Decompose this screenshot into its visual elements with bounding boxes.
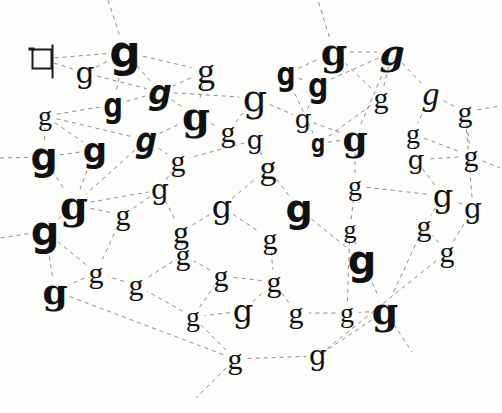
glyph-node: g (406, 120, 420, 148)
graph-edge (90, 208, 110, 212)
glyph-node: g (276, 58, 295, 90)
glyph-node: g (464, 195, 482, 223)
glyph-node: g (417, 211, 432, 241)
glyph-node: g (348, 240, 377, 280)
graph-edge-open (0, 234, 28, 238)
graph-edge (133, 197, 150, 208)
figure-canvas: gggggggggggggggggggggggggggggggggggggggg… (0, 0, 502, 413)
glyph-node: g (182, 96, 210, 136)
glyph-node: g (186, 303, 200, 331)
glyph-node: g (243, 79, 267, 117)
glyph-node: g (260, 151, 277, 185)
glyph-node: g (176, 240, 191, 270)
glyph-node: g (247, 127, 264, 153)
graph-edge (69, 278, 85, 285)
graph-edge (147, 291, 183, 311)
glyph-node: g (342, 120, 367, 156)
graph-edge (172, 100, 182, 107)
glyph-node: g (38, 102, 52, 130)
graph-edge (69, 296, 223, 354)
glyph-node: g (433, 180, 453, 212)
glyph-node: g (129, 270, 144, 300)
graph-edge (60, 152, 81, 155)
graph-edge-open (477, 106, 500, 110)
graph-edge-open (196, 368, 226, 398)
glyph-node: g (109, 30, 141, 74)
glyph-node: g (344, 217, 357, 243)
glyph-node: g (372, 292, 399, 330)
graph-edge (444, 101, 454, 106)
glyph-node: g (458, 97, 473, 127)
glyph-node: g (309, 342, 327, 370)
graph-edge (205, 313, 230, 316)
glyph-node: g (440, 237, 455, 267)
glyph-node: g (321, 33, 348, 71)
graph-edge (253, 291, 265, 302)
glyph-node: g (379, 34, 404, 70)
glyph-node: g (31, 211, 60, 251)
skeleton-bowl (32, 49, 53, 70)
glyph-node: g (464, 141, 479, 171)
glyph-node: g (89, 258, 104, 288)
graph-edge (101, 226, 117, 261)
graph-edge (345, 63, 372, 89)
graph-edge (55, 123, 83, 142)
graph-edge (233, 214, 259, 232)
graph-edge (248, 356, 307, 358)
glyph-node: g (263, 224, 278, 254)
graph-edge (192, 214, 210, 225)
graph-edge (367, 187, 430, 194)
graph-edge (427, 157, 459, 159)
glyph-node: g (116, 200, 131, 230)
glyph-node: g (408, 147, 425, 173)
glyph-node: g (374, 83, 389, 113)
graph-edge (194, 261, 210, 270)
graph-edge (270, 104, 293, 114)
graph-edge (58, 242, 86, 265)
glyph-node: g (148, 76, 172, 109)
glyph-node: g (42, 273, 67, 309)
glyph-node: g (214, 261, 229, 291)
graph-edge (432, 235, 438, 242)
glyph-node: g (423, 77, 440, 111)
graph-edge (211, 124, 217, 127)
graph-edge (328, 140, 340, 142)
graph-edge (126, 96, 146, 102)
graph-edge (54, 63, 73, 69)
graph-edge-open (483, 161, 500, 168)
glyph-node: g (75, 58, 94, 88)
graph-edge (201, 325, 226, 350)
graph-edge (359, 312, 369, 313)
graph-edge (234, 277, 262, 280)
graph-edge (455, 201, 462, 204)
graph-edge (200, 286, 214, 307)
skeleton-ear (29, 48, 35, 51)
glyph-node: g (311, 132, 325, 156)
glyph-node: g (30, 138, 57, 176)
glyph-node: g (295, 106, 312, 132)
glyph-node: g (171, 146, 186, 176)
glyph-node: g (228, 344, 243, 374)
glyph-node: g (103, 89, 123, 122)
glyph-node-skeleton-q (32, 49, 53, 70)
graph-edge (173, 77, 193, 86)
glyph-node: g (233, 295, 253, 327)
graph-edge (160, 123, 181, 133)
glyph-node: g (212, 191, 232, 223)
graph-edge (108, 277, 124, 282)
glyph-node: g (267, 267, 282, 297)
graph-edge (147, 262, 173, 278)
graph-edge (299, 78, 305, 80)
glyph-node: g (197, 53, 215, 89)
graph-edge (232, 177, 257, 198)
glyph-node: g (221, 117, 236, 147)
graph-edge (57, 107, 100, 114)
glyph-node: g (135, 122, 157, 158)
glyph-node: g (151, 176, 169, 204)
glyph-node: g (60, 185, 88, 225)
glyph-node: g (289, 298, 304, 328)
graph-edge (402, 63, 421, 83)
graph-edge (424, 138, 459, 151)
graph-edge (96, 61, 108, 68)
glyph-node: g (83, 133, 107, 167)
